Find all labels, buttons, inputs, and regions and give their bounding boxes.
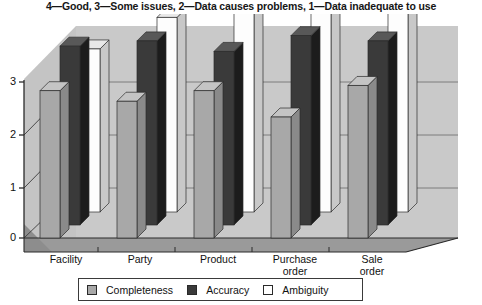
y-tick-label-1: 1	[0, 181, 16, 193]
chart-y-axis	[19, 80, 24, 238]
x-tick-label-sale-order: Sale order	[337, 254, 407, 277]
x-tick-label-party: Party	[105, 254, 175, 266]
legend-label-ambiguity: Ambiguity	[282, 284, 328, 296]
x-tick-label-purchase-order: Purchase order	[256, 254, 334, 277]
legend-swatch-accuracy	[187, 285, 197, 295]
x-tick-label-facility: Facility	[28, 254, 104, 266]
y-tick-label-0: 0	[0, 231, 16, 243]
y-tick-label-3: 3	[0, 75, 16, 87]
chart-floor-front	[24, 238, 458, 252]
legend-swatch-completeness	[87, 285, 97, 295]
bar-completeness-sale-order	[348, 76, 377, 238]
chart-plot-area	[0, 14, 482, 266]
legend-item-completeness: Completeness	[87, 284, 173, 296]
legend-label-completeness: Completeness	[106, 284, 173, 296]
chart-title: 4—Good, 3—Some issues, 2—Data causes pro…	[0, 0, 482, 12]
legend-item-accuracy: Accuracy	[187, 284, 249, 296]
legend-label-accuracy: Accuracy	[206, 284, 249, 296]
chart-legend: Completeness Accuracy Ambiguity	[78, 278, 363, 301]
legend-item-ambiguity: Ambiguity	[263, 284, 328, 296]
x-tick-label-product: Product	[180, 254, 256, 266]
bar-completeness-product	[194, 82, 223, 238]
bar-completeness-purchase-order	[271, 108, 300, 238]
bar-completeness-facility	[40, 82, 69, 238]
y-tick-label-2: 2	[0, 128, 16, 140]
legend-swatch-ambiguity	[263, 285, 273, 295]
bar-completeness-party	[117, 92, 146, 238]
